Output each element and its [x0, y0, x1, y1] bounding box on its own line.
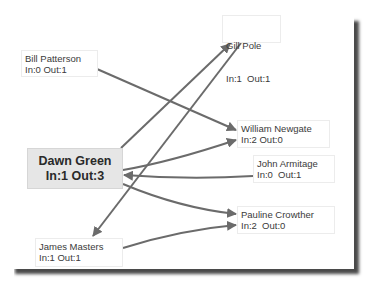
node-stats: In:0 Out:1	[257, 169, 331, 180]
node-stats: In:1 Out:1	[226, 73, 277, 84]
node-stats: In:1 Out:1	[39, 252, 119, 263]
node-name: John Armitage	[257, 158, 331, 169]
edge-james-to-pauline	[123, 225, 236, 248]
node-stats: In:1 Out:3	[32, 169, 118, 184]
node-james-masters[interactable]: James Masters In:1 Out:1	[35, 238, 123, 267]
node-name: James Masters	[39, 241, 119, 252]
node-name: Gill Pole	[226, 40, 277, 51]
edge-gill-to-james	[93, 43, 241, 236]
node-stats: In:0 Out:1	[25, 64, 94, 75]
node-bill-patterson[interactable]: Bill Patterson In:0 Out:1	[21, 50, 98, 77]
edge-dawn-to-pauline	[123, 184, 236, 214]
node-william-newgate[interactable]: William Newgate In:2 Out:0	[237, 120, 330, 148]
node-name: Bill Patterson	[25, 53, 94, 64]
node-name: William Newgate	[241, 123, 326, 134]
edge-john-to-dawn	[124, 175, 253, 178]
node-stats: In:2 Out:0	[241, 134, 326, 145]
node-stats: In:2 Out:0	[241, 220, 331, 231]
node-name: Pauline Crowther	[241, 209, 331, 220]
node-dawn-green[interactable]: Dawn Green In:1 Out:3	[27, 148, 123, 189]
node-john-armitage[interactable]: John Armitage In:0 Out:1	[253, 155, 335, 183]
node-name: Dawn Green	[32, 154, 118, 169]
node-pauline-crowther[interactable]: Pauline Crowther In:2 Out:0	[237, 206, 335, 234]
node-gill-pole[interactable]: Gill Pole In:1 Out:1	[222, 15, 281, 43]
edge-dawn-to-william	[123, 140, 236, 170]
edge-dawn-to-gill	[121, 44, 230, 148]
